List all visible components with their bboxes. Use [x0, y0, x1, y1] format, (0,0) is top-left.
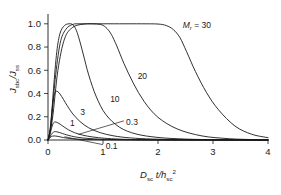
curve-label-1: 1 — [70, 118, 75, 128]
x-axis-ticks — [48, 140, 268, 144]
y-tick-label-0.2: 0.2 — [28, 111, 41, 122]
x-tick-label-4: 4 — [265, 146, 270, 157]
curve-label-0.1: 0.1 — [106, 141, 118, 151]
curve-label-3: 3 — [80, 107, 85, 117]
x-tick-label-3: 3 — [210, 146, 215, 157]
y-tick-label-0.8: 0.8 — [28, 41, 41, 52]
figure-container: 012340.00.20.40.60.81.0 Mr = 302010310.3… — [0, 0, 281, 195]
line-chart: 012340.00.20.40.60.81.0 Mr = 302010310.3… — [0, 0, 281, 195]
y-tick-label-1.0: 1.0 — [28, 18, 41, 29]
y-tick-label-0.0: 0.0 — [28, 134, 41, 145]
y-axis-ticks — [44, 24, 48, 140]
curve-group — [48, 24, 268, 140]
leader-line-0.3 — [78, 121, 124, 135]
x-axis-title: Dsc t/hsc2 — [140, 168, 176, 182]
y-axis-title: Jsbc/Jss — [7, 65, 20, 94]
y-axis-title-text: Jsbc/Jss — [7, 65, 20, 94]
curve-label-Mr30: Mr = 30 — [183, 20, 212, 31]
curve-label-0.3: 0.3 — [126, 117, 138, 127]
y-tick-label-0.4: 0.4 — [28, 88, 41, 99]
curve-label-20: 20 — [138, 71, 148, 81]
x-tick-label-2: 2 — [155, 146, 160, 157]
x-axis-title-text: Dsc t/hsc2 — [140, 168, 176, 182]
annotation-group: Mr = 302010310.30.1 — [70, 20, 211, 151]
x-tick-label-0: 0 — [45, 146, 50, 157]
y-tick-label-0.6: 0.6 — [28, 65, 41, 76]
curve-label-10: 10 — [110, 94, 120, 104]
